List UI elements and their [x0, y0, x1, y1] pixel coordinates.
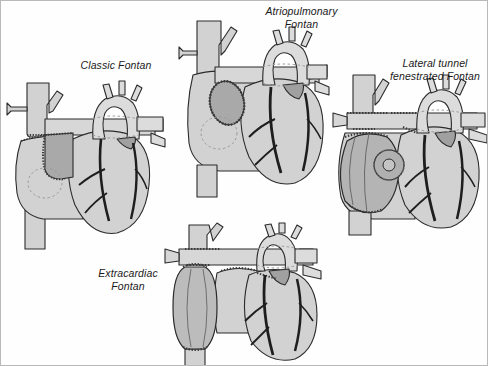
illustration-frame: Classic Fontan [0, 0, 488, 366]
label-extracardiac-fontan: Extracardiac Fontan [83, 267, 173, 292]
extracardiac-conduit [173, 267, 217, 349]
figure-classic-fontan [5, 73, 165, 253]
classic-conduit [45, 133, 73, 179]
label-classic-fontan: Classic Fontan [61, 59, 171, 72]
label-lateral-tunnel-fontan: Lateral tunnel fenestrated Fontan [383, 57, 487, 82]
figure-extracardiac-fontan [165, 223, 325, 366]
figure-lateral-tunnel-fontan [331, 71, 488, 236]
figure-atriopulmonary-fontan [179, 15, 329, 200]
label-atriopulmonary-fontan: Atriopulmonary Fontan [249, 5, 354, 30]
